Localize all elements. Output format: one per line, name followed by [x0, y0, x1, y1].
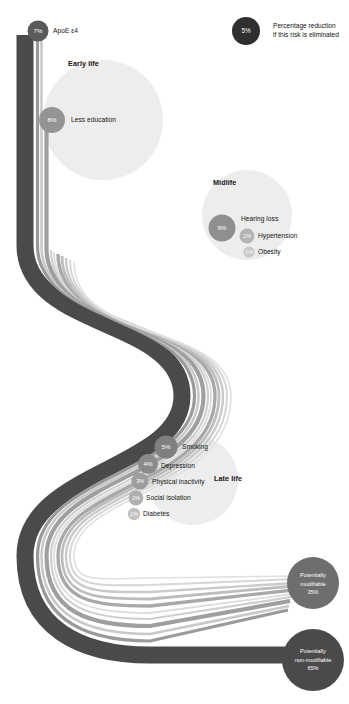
outcome-non-modifiable-value: 65% [307, 665, 318, 671]
risk-value-diabetes: 1% [130, 511, 138, 517]
risk-label-diabetes: Diabetes [143, 510, 170, 517]
figure-canvas: Early life 7% ApoE ε4 8% Less education … [0, 0, 349, 704]
risk-label-isolation: Social isolation [146, 494, 191, 501]
outcome-modifiable-line1: Potentially [300, 572, 326, 578]
risk-label-inactivity: Physical inactivity [152, 478, 205, 486]
risk-value-depression: 4% [144, 460, 153, 467]
risk-value-obesity: 1% [245, 249, 253, 255]
outcome-non-modifiable-line1: Potentially [300, 648, 326, 654]
dementia-risk-ribbon-diagram: Early life 7% ApoE ε4 8% Less education … [0, 0, 349, 704]
risk-label-hypertension: Hypertension [258, 232, 298, 240]
outcome-modifiable-line2: modifiable [300, 581, 326, 587]
risk-value-apoe: 7% [34, 27, 43, 34]
risk-value-isolation: 2% [132, 495, 140, 501]
legend: 5% Percentage reduction if this risk is … [232, 17, 339, 45]
ribbon-diabetes [74, 262, 297, 579]
risk-label-apoe: ApoE ε4 [53, 27, 78, 35]
legend-marker-value: 5% [241, 27, 251, 34]
outcome-non-modifiable-line2: non-modifiable [295, 657, 332, 663]
risk-value-smoking: 5% [162, 443, 171, 450]
legend-text-line-2: if this risk is eliminated [273, 31, 339, 38]
risk-label-education: Less education [71, 116, 116, 123]
risk-value-inactivity: 3% [136, 478, 144, 484]
era-label-late-life: Late life [214, 474, 242, 483]
risk-value-hypertension: 2% [243, 233, 251, 239]
risk-label-hearing: Hearing loss [241, 215, 279, 223]
risk-label-depression: Depression [161, 462, 195, 470]
outcome-modifiable-value: 35% [307, 589, 318, 595]
risk-label-smoking: Smoking [182, 443, 208, 451]
risk-label-obesity: Obesity [258, 248, 281, 256]
risk-value-hearing: 9% [218, 224, 227, 231]
risk-value-education: 8% [48, 116, 57, 123]
era-label-midlife: Midlife [213, 178, 236, 187]
legend-text-line-1: Percentage reduction [273, 22, 336, 30]
era-label-early-life: Early life [68, 59, 99, 68]
